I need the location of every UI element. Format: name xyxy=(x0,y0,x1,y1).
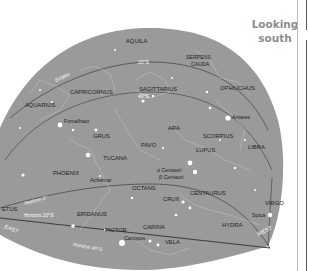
label-grus: GRUS xyxy=(93,133,110,139)
label-dec-40: 40°S xyxy=(138,93,150,99)
title-line-2: south xyxy=(240,31,309,45)
label-pictor: PICTOR xyxy=(105,227,127,233)
label-alpha-centauri: α Centauri xyxy=(157,167,182,173)
label-dec-20: 20°S xyxy=(137,59,150,65)
label-lupus: LUPUS xyxy=(196,147,215,153)
label-pavo: PAVO xyxy=(141,142,157,148)
label-virgo: VIRGO xyxy=(265,200,284,206)
label-beta-centauri: β Centauri xyxy=(159,174,184,180)
label-cauda: CAUDA xyxy=(191,61,210,67)
label-canopus: Canopus xyxy=(124,235,146,241)
label-libra: LIBRA xyxy=(248,144,265,150)
page-edge-mark-top xyxy=(306,0,307,30)
label-serpens: SERPENS xyxy=(186,54,211,60)
label-horizon-20: Horizon 20°S xyxy=(24,212,54,218)
label-aquila: AQUILA xyxy=(126,38,147,44)
label-sagittarius: SAGITTARIUS xyxy=(139,86,177,92)
label-ophiuchus: OPHIUCHUS xyxy=(220,85,255,91)
label-cetus: ETUS xyxy=(2,206,18,212)
label-centaurus: CENTAURUS xyxy=(190,190,226,196)
label-aquarius: AQUARIUS xyxy=(25,102,55,108)
view-direction-title: Looking south xyxy=(240,17,309,45)
label-capricornus: CAPRICORNUS xyxy=(70,89,113,95)
label-carina: CARINA xyxy=(143,224,165,230)
label-tucana: TUCANA xyxy=(103,155,127,161)
page-edge-mark-bottom xyxy=(306,40,307,271)
label-vela: VELA xyxy=(165,239,180,245)
zenith-degree: 0° xyxy=(139,22,144,28)
label-crux: CRUX xyxy=(163,196,180,202)
zenith-label: Zenith xyxy=(132,15,147,21)
title-line-1: Looking xyxy=(240,17,309,31)
label-hydra: HYDRA xyxy=(222,222,242,228)
label-octans: OCTANS xyxy=(132,185,156,191)
page-divider-line xyxy=(297,0,298,271)
label-antares: Antares xyxy=(232,114,251,120)
label-phoenix: PHOENIX xyxy=(53,170,79,176)
label-scorpius: SCORPIUS xyxy=(203,133,233,139)
label-fomalhaut: Fomalhaut xyxy=(64,118,90,124)
label-ara: ARA xyxy=(168,125,180,131)
label-eridanus: ERIDANUS xyxy=(77,211,107,217)
label-spica: Spica xyxy=(252,212,265,218)
label-achernar: Achernar xyxy=(90,177,112,183)
